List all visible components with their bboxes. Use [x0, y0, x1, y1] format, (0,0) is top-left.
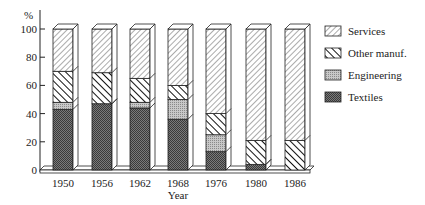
y-tick-label: 20: [26, 136, 38, 148]
x-tick-label: 1968: [167, 177, 190, 189]
y-tick-label: 100: [21, 23, 38, 35]
x-tick-label: 1956: [91, 177, 114, 189]
segment-textiles: [168, 119, 188, 170]
segment-textiles: [130, 108, 150, 170]
x-tick-label: 1980: [245, 177, 268, 189]
y-tick-label: 0: [32, 164, 38, 176]
bar-1968: [168, 24, 193, 170]
y-tick-label: 80: [26, 51, 38, 63]
legend-item-textiles: Textiles: [325, 91, 383, 103]
legend-label: Textiles: [348, 91, 383, 103]
x-tick-label: 1976: [205, 177, 228, 189]
legend-swatch: [325, 26, 341, 36]
x-tick-label: 1950: [52, 177, 75, 189]
legend-label: Services: [348, 25, 385, 37]
y-axis-unit-label: %: [24, 9, 33, 21]
segment-other-manuf-: [130, 78, 150, 102]
segment-services: [285, 29, 305, 140]
stacked-bar-chart: %020406080100 19501956196219681976198019…: [0, 0, 425, 205]
segment-textiles: [246, 164, 266, 170]
legend-item-other-manuf-: Other manuf.: [325, 47, 407, 59]
segment-textiles: [92, 104, 112, 170]
legend-label: Other manuf.: [348, 47, 407, 59]
legend-swatch: [325, 70, 341, 80]
y-tick-label: 40: [26, 108, 38, 120]
bar-1962: [130, 24, 155, 170]
segment-services: [53, 29, 73, 71]
segment-other-manuf-: [285, 140, 305, 170]
bar-1980: [246, 24, 271, 170]
segment-other-manuf-: [168, 85, 188, 99]
legend-item-services: Services: [325, 25, 385, 37]
bar-1956: [92, 24, 117, 170]
legend-item-engineering: Engineering: [325, 69, 402, 81]
segment-services: [130, 29, 150, 78]
bar-1950: [53, 24, 78, 170]
segment-other-manuf-: [206, 114, 226, 135]
segment-other-manuf-: [92, 73, 112, 104]
legend-swatch: [325, 48, 341, 58]
bar-1976: [206, 24, 231, 170]
segment-other-manuf-: [246, 140, 266, 164]
segment-engineering: [168, 100, 188, 120]
legend-label: Engineering: [348, 69, 402, 81]
y-tick-label: 60: [26, 79, 38, 91]
segment-services: [92, 29, 112, 73]
x-axis-labels: 1950195619621968197619801986Year: [52, 177, 307, 201]
segment-engineering: [206, 135, 226, 152]
segment-services: [246, 29, 266, 140]
legend: ServicesOther manuf.EngineeringTextiles: [325, 25, 407, 103]
segment-engineering: [130, 102, 150, 108]
x-tick-label: 1986: [284, 177, 307, 189]
x-tick-label: 1962: [129, 177, 151, 189]
x-axis-title: Year: [168, 189, 189, 201]
segment-other-manuf-: [53, 71, 73, 102]
segment-textiles: [53, 109, 73, 170]
bar-1986: [285, 24, 310, 170]
legend-swatch: [325, 92, 341, 102]
segment-textiles: [206, 152, 226, 170]
segment-services: [168, 29, 188, 85]
bars: [53, 24, 310, 170]
segment-engineering: [53, 102, 73, 109]
segment-services: [206, 29, 226, 114]
